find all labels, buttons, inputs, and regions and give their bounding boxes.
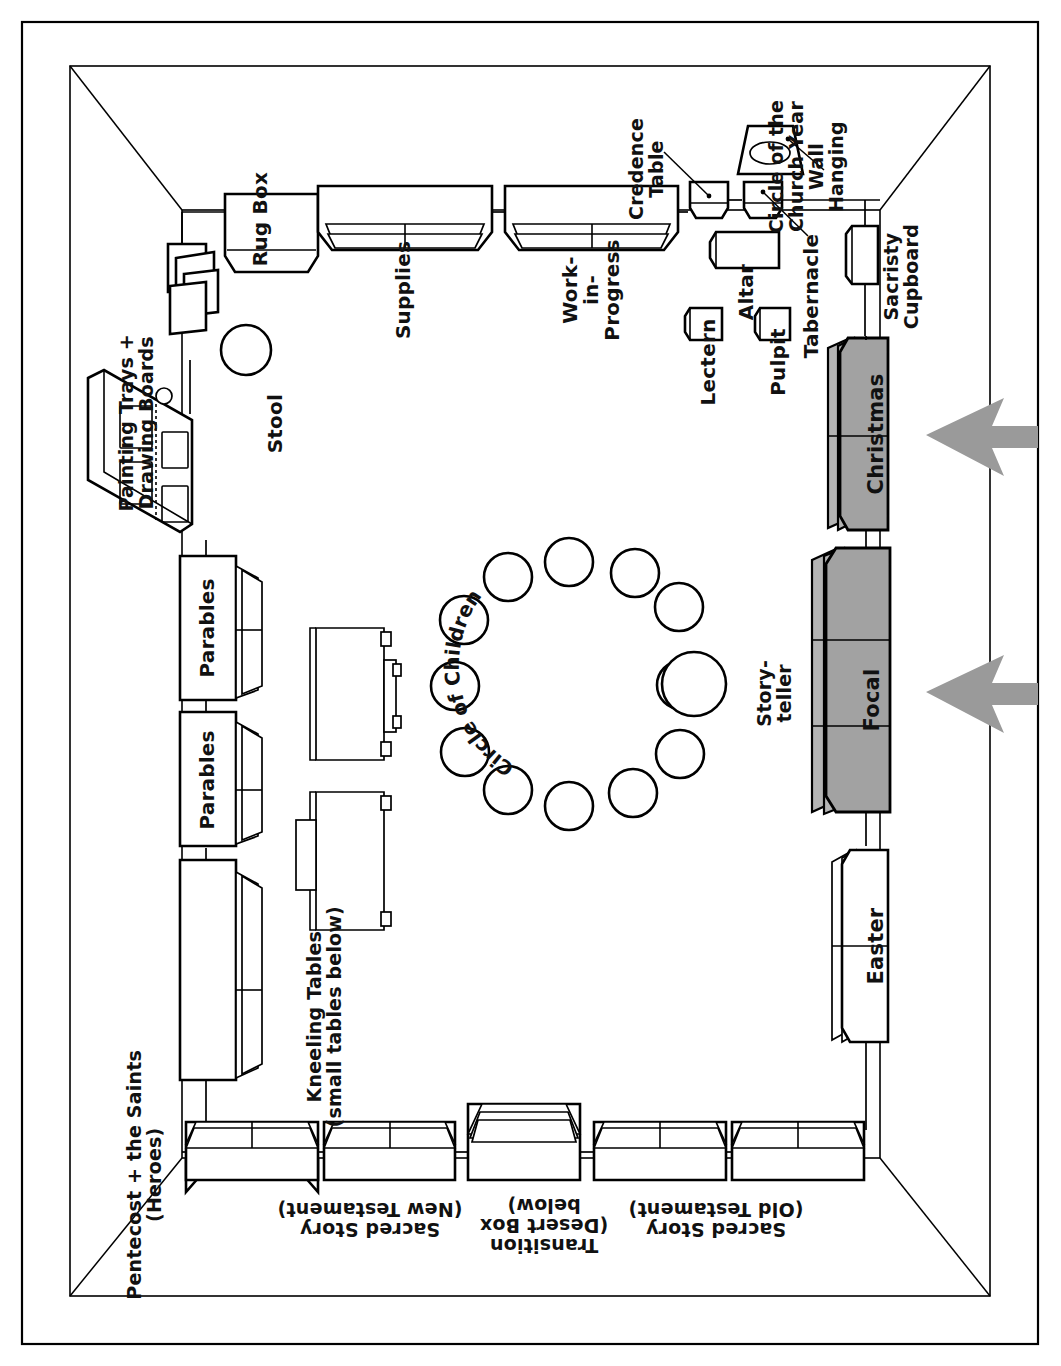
painting-trays-drawing-boards-shape [168, 244, 218, 334]
child-seat [484, 553, 532, 601]
label-kneeling-tables: Kneeling Tables (small tables below) [304, 906, 344, 1127]
kneeling-tables-shape [310, 628, 401, 760]
child-seat [655, 583, 703, 631]
label-christmas: Christmas [865, 374, 887, 495]
sacred-story-new-testament-shape-2 [324, 1122, 455, 1180]
label-lectern: Lectern [698, 319, 719, 406]
label-painting-trays-drawing-boards: Painting Trays + Drawing Boards [116, 334, 156, 512]
sacred-story-old-testament-shape-2 [732, 1122, 864, 1180]
label-supplies: Supplies [393, 241, 414, 339]
label-parables-upper: Parables [197, 578, 218, 677]
christmas-arrow-icon [926, 398, 1038, 476]
label-parables-lower: Parables [197, 730, 218, 829]
credence-table-shape [690, 182, 728, 218]
stool-shape [221, 325, 271, 375]
floor-plan-canvas: .w{fill:#fff;stroke:#000;stroke-width:2.… [0, 0, 1061, 1366]
label-storyteller: Story- teller [754, 660, 794, 727]
parables-upper-shape [180, 556, 262, 700]
child-seat [611, 549, 659, 597]
label-pentecost-and-the-saints: Pentecost + the Saints (Heroes) [124, 1050, 164, 1300]
storyteller-seat [662, 652, 726, 716]
sacred-story-new-testament-shape [186, 1122, 318, 1192]
label-circle-of-the-church-year-wall-hanging: Circle of the Church Year Wall Hanging [766, 100, 847, 233]
child-seat [440, 596, 488, 644]
sacristy-cupboard-shape [846, 226, 878, 284]
altar-shape [710, 232, 779, 268]
child-seat [609, 769, 657, 817]
label-focal: Focal [861, 669, 883, 732]
child-seat [431, 662, 479, 710]
label-tabernacle: Tabernacle [801, 234, 822, 358]
pentecost-and-the-saints-shape [180, 860, 262, 1080]
label-easter: Easter [865, 908, 887, 985]
sacred-story-old-testament-shape [594, 1122, 726, 1180]
child-seat [441, 728, 489, 776]
focal-arrow-icon [926, 655, 1038, 733]
child-seat [545, 538, 593, 586]
child-seat [656, 730, 704, 778]
child-seat [545, 782, 593, 830]
child-seat [484, 766, 532, 814]
label-rug-box: Rug Box [250, 172, 271, 266]
label-altar: Altar [736, 264, 757, 320]
label-sacred-story-old-testament: Sacred Story (Old Testament) [596, 1200, 836, 1240]
transition-desert-box-shape [468, 1104, 580, 1180]
parables-lower-shape [180, 712, 262, 846]
label-work-in-progress: Work- in- Progress [560, 239, 624, 340]
label-sacristy-cupboard: Sacristy Cupboard [881, 224, 921, 329]
label-credence-table: Credence Table [626, 118, 666, 220]
label-stool: Stool [265, 394, 286, 453]
label-pulpit: Pulpit [768, 328, 789, 396]
